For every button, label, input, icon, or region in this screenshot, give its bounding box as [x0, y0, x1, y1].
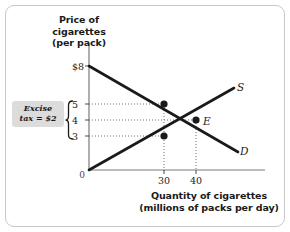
- y-tick-label-5: 5: [62, 99, 78, 110]
- supply-curve-label: S: [237, 81, 244, 93]
- equilibrium-label: E: [203, 115, 211, 127]
- point-producer-price: [160, 132, 167, 139]
- y-tick-label-3: 3: [62, 131, 78, 142]
- y-axis-title-line3: (per pack): [33, 37, 125, 49]
- x-axis-title: Quantity of cigarettes (millions of pack…: [133, 190, 285, 213]
- point-consumer-price: [160, 100, 167, 107]
- supply-curve: [89, 88, 234, 170]
- y-tick-label-8: $8: [62, 61, 84, 72]
- y-tick-label-4: 4: [62, 115, 78, 126]
- demand-curve-label: D: [240, 145, 248, 157]
- x-axis-title-line1: Quantity of cigarettes: [133, 190, 285, 202]
- origin-label: 0: [76, 170, 88, 180]
- x-tick-label-40: 40: [184, 175, 208, 186]
- excise-tax-line2: tax = $2: [14, 114, 62, 124]
- x-tick-marks: [164, 170, 196, 174]
- y-axis-title-line1: Price of: [33, 14, 125, 26]
- x-tick-label-30: 30: [152, 175, 176, 186]
- y-axis-title-line2: cigarettes: [33, 26, 125, 38]
- point-equilibrium: [192, 116, 199, 123]
- x-axis-title-line2: (millions of packs per day): [133, 202, 285, 214]
- excise-tax-annotation: Excise tax = $2: [12, 101, 64, 127]
- excise-tax-supply-demand-figure: Price of cigarettes (per pack) Quantity …: [0, 0, 290, 232]
- y-axis-title: Price of cigarettes (per pack): [33, 14, 125, 49]
